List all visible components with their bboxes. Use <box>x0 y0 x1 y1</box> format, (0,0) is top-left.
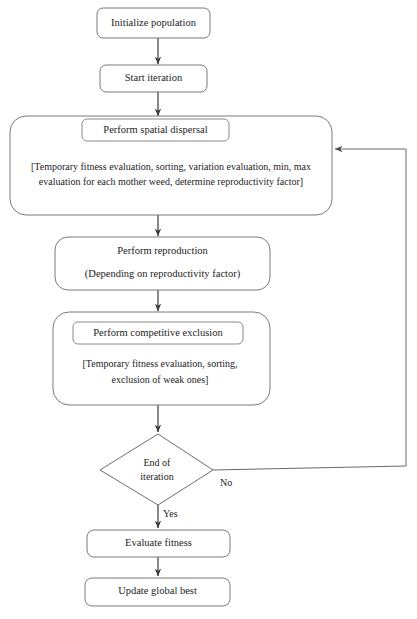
node-decision-end-of-iteration: End of iteration <box>100 434 213 505</box>
node-perform-reproduction: Perform reproduction (Depending on repro… <box>55 237 270 290</box>
spatial-dispersal-detail-line2: evaluation for each mother weed, determi… <box>39 176 303 187</box>
edge-label-yes: Yes <box>163 508 178 519</box>
competitive-exclusion-header-label: Perform competitive exclusion <box>93 327 223 338</box>
start-iteration-label: Start iteration <box>125 72 183 83</box>
competitive-exclusion-detail-line2: exclusion of weak ones] <box>112 374 209 385</box>
decision-diamond-shape <box>100 434 213 505</box>
evaluate-fitness-label: Evaluate fitness <box>125 537 192 548</box>
competitive-exclusion-detail-line1: [Temporary fitness evaluation, sorting, <box>82 358 237 369</box>
node-update-global-best: Update global best <box>85 578 230 606</box>
node-competitive-exclusion: Perform competitive exclusion [Temporary… <box>53 312 270 405</box>
perform-reproduction-line1: Perform reproduction <box>117 245 208 256</box>
update-global-best-label: Update global best <box>118 585 197 596</box>
spatial-dispersal-header-label: Perform spatial dispersal <box>103 124 207 135</box>
edge-label-no: No <box>220 477 232 488</box>
decision-label-line1: End of <box>144 457 172 468</box>
perform-reproduction-line2: (Depending on reproductivity factor) <box>85 268 241 280</box>
node-start-iteration: Start iteration <box>100 65 207 92</box>
initialize-population-label: Initialize population <box>111 17 197 28</box>
node-evaluate-fitness: Evaluate fitness <box>87 530 230 557</box>
flowchart-diagram: Initialize population Start iteration Pe… <box>0 0 417 619</box>
node-spatial-dispersal: Perform spatial dispersal [Temporary fit… <box>10 116 332 215</box>
spatial-dispersal-detail-line1: [Temporary fitness evaluation, sorting, … <box>31 161 311 172</box>
decision-label-line2: iteration <box>140 471 173 482</box>
flowchart-canvas: Initialize population Start iteration Pe… <box>0 0 417 619</box>
node-initialize-population: Initialize population <box>97 8 210 38</box>
